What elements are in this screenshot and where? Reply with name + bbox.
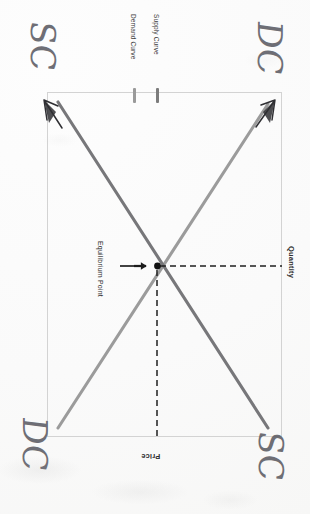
plot-frame [47, 92, 282, 437]
x-axis-label: Quantity [287, 246, 296, 278]
handwritten-label-bottom-right: SC [251, 429, 291, 483]
legend-label-demand: Demand Curve [130, 14, 137, 60]
handwritten-label-top-right: DC [250, 19, 290, 78]
legend-swatch-supply [156, 88, 159, 103]
handwritten-label-top-left: SC [23, 19, 63, 73]
legend-label-supply: Supply Curve [153, 14, 160, 55]
y-axis-label: Price [141, 452, 160, 461]
equilibrium-point-label: Equilibrium Point [97, 241, 104, 297]
legend-swatch-demand [133, 88, 136, 103]
handwritten-label-bottom-left: DC [15, 415, 55, 473]
